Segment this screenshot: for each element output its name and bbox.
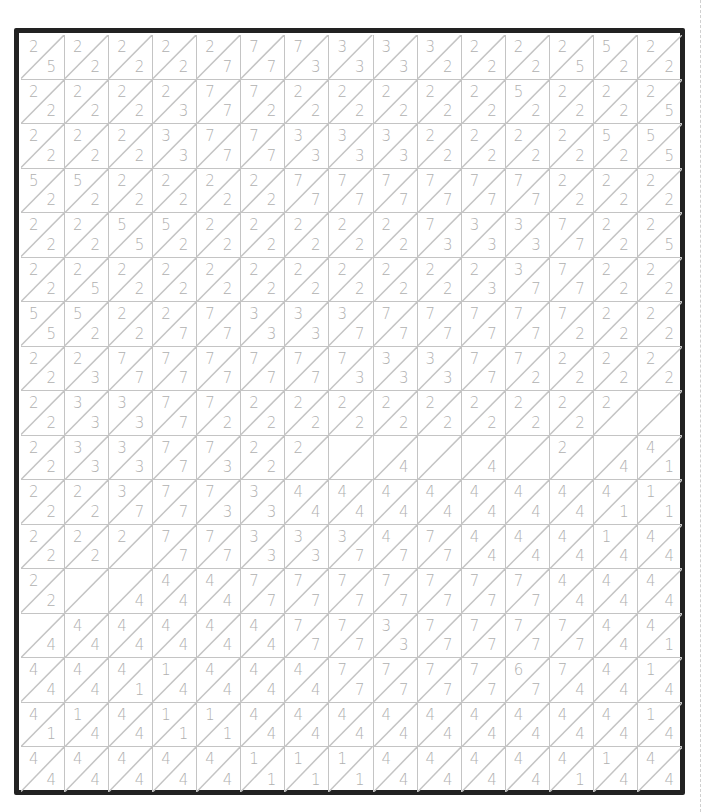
grid-cell[interactable]: 41	[109, 658, 153, 703]
grid-cell[interactable]: 52	[65, 302, 109, 347]
grid-cell[interactable]: 44	[153, 747, 197, 792]
grid-cell[interactable]: 77	[374, 658, 418, 703]
grid-cell[interactable]: 44	[21, 658, 65, 703]
grid-cell[interactable]: 77	[285, 614, 329, 659]
grid-cell[interactable]: 77	[153, 391, 197, 436]
grid-cell[interactable]: 2	[109, 525, 153, 570]
grid-cell[interactable]: 44	[374, 480, 418, 525]
grid-cell[interactable]: 77	[241, 347, 285, 392]
grid-cell[interactable]: 22	[329, 391, 373, 436]
grid-cell[interactable]: 22	[65, 480, 109, 525]
grid-cell[interactable]: 77	[418, 658, 462, 703]
grid-cell[interactable]: 22	[197, 169, 241, 214]
grid-cell[interactable]: 44	[65, 747, 109, 792]
grid-cell[interactable]: 44	[418, 703, 462, 748]
grid-cell[interactable]: 33	[109, 391, 153, 436]
grid-cell[interactable]: 22	[506, 124, 550, 169]
grid-cell[interactable]: 22	[65, 525, 109, 570]
grid-cell[interactable]: 52	[594, 124, 638, 169]
grid-cell[interactable]: 44	[638, 747, 682, 792]
grid-cell[interactable]: 33	[65, 436, 109, 481]
grid-cell[interactable]: 33	[418, 347, 462, 392]
grid-cell[interactable]: 77	[462, 658, 506, 703]
grid-cell[interactable]: 22	[21, 124, 65, 169]
grid-cell[interactable]: 22	[21, 213, 65, 258]
grid-cell[interactable]: 33	[374, 124, 418, 169]
grid-cell[interactable]: 11	[241, 747, 285, 792]
grid-cell[interactable]: 77	[153, 525, 197, 570]
grid-cell[interactable]: 44	[153, 614, 197, 659]
grid-cell[interactable]: 22	[153, 258, 197, 303]
grid-cell[interactable]: 44	[197, 614, 241, 659]
grid-cell[interactable]: 44	[594, 658, 638, 703]
grid-cell[interactable]: 73	[418, 213, 462, 258]
grid-cell[interactable]: 77	[329, 169, 373, 214]
grid-cell[interactable]: 22	[21, 258, 65, 303]
grid-cell[interactable]: 41	[21, 703, 65, 748]
grid-cell[interactable]: 33	[462, 213, 506, 258]
grid-cell[interactable]: 55	[21, 302, 65, 347]
grid-cell[interactable]: 22	[109, 80, 153, 125]
grid-cell[interactable]: 22	[285, 213, 329, 258]
grid-cell[interactable]: 44	[418, 480, 462, 525]
grid-cell[interactable]: 44	[197, 658, 241, 703]
grid-cell[interactable]: 52	[153, 213, 197, 258]
grid-cell[interactable]: 22	[418, 391, 462, 436]
grid-cell[interactable]: 77	[285, 347, 329, 392]
grid-cell[interactable]: 55	[109, 213, 153, 258]
grid-cell[interactable]: 22	[462, 35, 506, 80]
grid-cell[interactable]: 22	[329, 213, 373, 258]
grid-cell[interactable]: 33	[374, 347, 418, 392]
grid-cell[interactable]: 22	[594, 302, 638, 347]
grid-cell[interactable]: 33	[153, 124, 197, 169]
grid-cell[interactable]: 22	[21, 80, 65, 125]
grid-cell[interactable]: 77	[550, 258, 594, 303]
grid-cell[interactable]: 44	[197, 747, 241, 792]
grid-cell[interactable]: 14	[638, 703, 682, 748]
grid-cell[interactable]: 22	[550, 347, 594, 392]
grid-cell[interactable]: 77	[418, 302, 462, 347]
grid-cell[interactable]: 77	[418, 525, 462, 570]
grid-cell[interactable]: 73	[285, 35, 329, 80]
grid-cell[interactable]: 32	[418, 35, 462, 80]
grid-cell[interactable]: 44	[329, 703, 373, 748]
grid-cell[interactable]: 33	[241, 480, 285, 525]
grid-cell[interactable]: 44	[241, 658, 285, 703]
grid-cell[interactable]: 23	[153, 80, 197, 125]
grid-cell[interactable]: 44	[506, 480, 550, 525]
grid-cell[interactable]: 23	[462, 258, 506, 303]
grid-cell[interactable]: 47	[374, 525, 418, 570]
grid-cell[interactable]: 77	[241, 124, 285, 169]
grid-cell[interactable]: 44	[638, 525, 682, 570]
grid-cell[interactable]: 22	[65, 213, 109, 258]
grid-cell[interactable]: 4	[594, 436, 638, 481]
grid-cell[interactable]: 72	[550, 302, 594, 347]
grid-cell[interactable]: 11	[329, 747, 373, 792]
grid-cell[interactable]: 67	[506, 658, 550, 703]
grid-cell[interactable]: 33	[285, 124, 329, 169]
grid-cell[interactable]: 11	[285, 747, 329, 792]
grid-cell[interactable]: 72	[506, 347, 550, 392]
grid-cell[interactable]: 25	[65, 258, 109, 303]
grid-cell[interactable]: 44	[21, 747, 65, 792]
grid-cell[interactable]: 77	[506, 302, 550, 347]
grid-cell[interactable]	[329, 436, 373, 481]
grid-cell[interactable]: 77	[109, 347, 153, 392]
grid-cell[interactable]: 77	[462, 614, 506, 659]
grid-cell[interactable]: 33	[65, 391, 109, 436]
grid-cell[interactable]: 77	[329, 569, 373, 614]
grid-cell[interactable]: 77	[197, 302, 241, 347]
grid-cell[interactable]: 4	[462, 436, 506, 481]
grid-cell[interactable]: 77	[506, 569, 550, 614]
grid-cell[interactable]: 22	[21, 347, 65, 392]
grid-cell[interactable]: 22	[374, 80, 418, 125]
grid-cell[interactable]: 44	[285, 703, 329, 748]
grid-cell[interactable]: 22	[21, 525, 65, 570]
grid-cell[interactable]: 25	[21, 35, 65, 80]
grid-cell[interactable]: 25	[638, 213, 682, 258]
grid-cell[interactable]: 44	[65, 614, 109, 659]
grid-cell[interactable]: 2	[285, 436, 329, 481]
grid-cell[interactable]: 22	[550, 391, 594, 436]
grid-cell[interactable]: 23	[65, 347, 109, 392]
grid-cell[interactable]: 22	[241, 436, 285, 481]
